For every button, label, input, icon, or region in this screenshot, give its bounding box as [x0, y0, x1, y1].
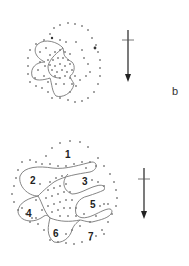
region-label-5: 5: [90, 199, 96, 210]
region-label-1: 1: [65, 149, 71, 160]
region-label-4: 4: [26, 208, 32, 219]
bottom-north-arrow-icon: [138, 168, 150, 219]
panel-label: b: [172, 85, 178, 97]
region-label-3: 3: [82, 176, 88, 187]
top-diagram: b: [27, 22, 178, 103]
region-4-outline: [18, 196, 50, 221]
region-label-7: 7: [88, 231, 94, 242]
center-boundary-outline: [38, 196, 80, 221]
bottom-diagram: 1 2 3 4 5 6 7: [11, 140, 150, 245]
bottom-center-stipple: [35, 167, 109, 217]
top-outer-dots: [27, 22, 101, 103]
region-label-2: 2: [30, 175, 36, 186]
top-lobe-outline: [32, 41, 75, 96]
region-label-6: 6: [53, 228, 59, 239]
top-north-arrow-icon: [122, 30, 134, 82]
figure-canvas: b: [0, 0, 189, 266]
top-center-stipple: [34, 47, 76, 85]
